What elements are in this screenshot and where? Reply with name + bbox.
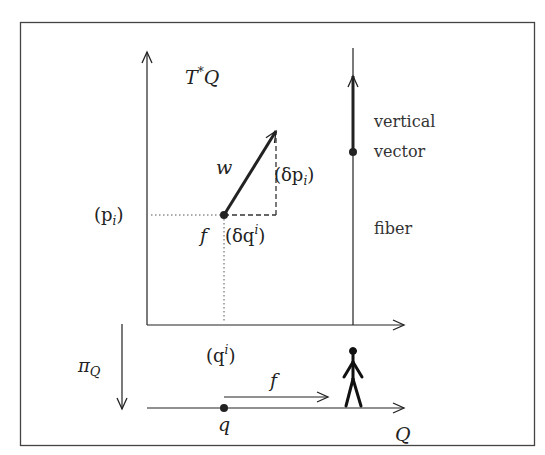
q-coordinate-label: (qi) [206, 343, 235, 366]
w-label: w [216, 156, 232, 178]
frame-border [21, 23, 535, 446]
point-q-label: q [218, 413, 230, 435]
point-f-dot [220, 211, 228, 219]
base-space-label: Q [395, 423, 411, 445]
stick-figure-icon [344, 348, 362, 407]
vertical-vector-label-line1: vertical [373, 112, 435, 131]
fiber-label: fiber [374, 219, 412, 238]
delta-p-label: (δpi) [274, 164, 314, 188]
point-q-dot [220, 404, 228, 412]
vertical-vector-base-dot [349, 148, 357, 156]
space-label-tstarq: T*Q [185, 65, 219, 88]
point-f-label: f [198, 224, 210, 246]
vertical-vector-label-line2: vector [373, 142, 426, 161]
f-arrow-label: f [268, 369, 280, 391]
delta-q-label: (δqi) [225, 223, 265, 246]
projection-label: πQ [77, 355, 101, 379]
p-coordinate-label: (pi) [94, 204, 123, 228]
cotangent-bundle-diagram: T*Q w (δpi) (pi) f (δqi) (qi) πQ f q Q v… [0, 0, 545, 455]
